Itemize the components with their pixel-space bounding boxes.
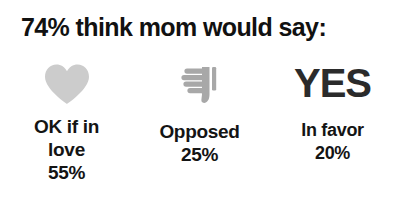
options-row: OK if in love 55% bbox=[0, 58, 399, 215]
option-caption: OK if in love 55% bbox=[17, 115, 117, 184]
option-label-line2: love bbox=[48, 139, 85, 160]
option-column-ok-if-in-love: OK if in love 55% bbox=[0, 58, 133, 184]
thumbs-down-icon bbox=[178, 62, 222, 108]
option-caption: Opposed 25% bbox=[137, 120, 262, 166]
option-column-in-favor: YES In favor 20% bbox=[266, 58, 399, 165]
option-label-line1: In favor bbox=[301, 120, 364, 140]
option-percent: 20% bbox=[270, 142, 395, 165]
page-title: 74% think mom would say: bbox=[21, 12, 383, 42]
yes-word-text: YES bbox=[294, 63, 371, 103]
yes-word: YES bbox=[294, 58, 371, 107]
option-percent: 55% bbox=[17, 161, 117, 184]
option-label-line1: Opposed bbox=[159, 121, 239, 142]
option-column-opposed: Opposed 25% bbox=[133, 58, 266, 166]
option-percent: 25% bbox=[137, 143, 262, 166]
option-label-line1: OK if in bbox=[34, 116, 99, 137]
heart-icon bbox=[43, 61, 91, 107]
poll-infographic: 74% think mom would say: OK if in love 5… bbox=[0, 0, 399, 215]
option-caption: In favor 20% bbox=[270, 119, 395, 165]
